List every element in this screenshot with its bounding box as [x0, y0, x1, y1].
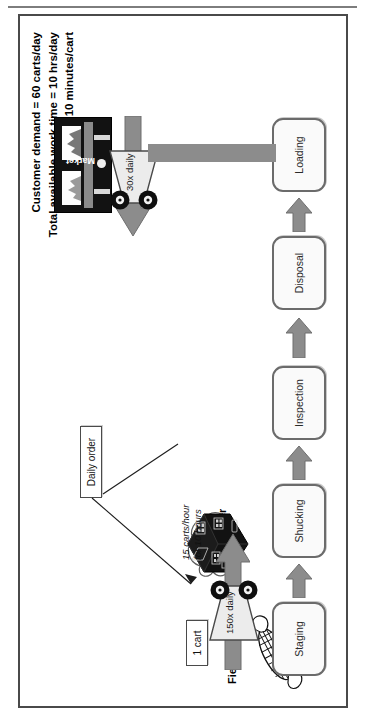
- shipment-label-30x-daily: 30x daily: [124, 154, 135, 192]
- process-label-staging: Staging: [293, 621, 305, 657]
- shipment-truck-150x: 150x daily: [208, 572, 264, 644]
- inventory-box-1-cart: 1 cart: [186, 620, 208, 666]
- process-box-shucking: Shucking: [272, 484, 326, 558]
- metric-customer-demand: Customer demand = 60 carts/day: [28, 32, 45, 237]
- push-arrow-disposal-to-loading: [286, 198, 312, 232]
- process-box-inspection: Inspection: [272, 366, 326, 440]
- rotated-figure-stage: Customer demand = 60 carts/day Total ava…: [18, 14, 348, 708]
- market-produce-right: [62, 126, 81, 160]
- process-label-shucking: Shucking: [293, 499, 305, 542]
- annotation-rate-line2: for 10 hours: [192, 505, 204, 560]
- process-box-loading: Loading: [272, 118, 326, 192]
- push-arrow-shucking-to-inspection: [286, 446, 312, 480]
- loading-to-shipment-connector: [148, 138, 276, 168]
- push-arrow-staging-to-shucking: [286, 564, 312, 598]
- market-building-icon: Market: [54, 117, 112, 213]
- market-sign-knob: [97, 159, 106, 168]
- push-arrow-inspection-to-disposal: [286, 324, 312, 358]
- figure-page: Customer demand = 60 carts/day Total ava…: [0, 0, 365, 720]
- process-label-disposal: Disposal: [293, 253, 305, 293]
- process-label-inspection: Inspection: [293, 379, 305, 427]
- process-box-staging: Staging: [272, 602, 326, 676]
- market-post-right: [94, 135, 110, 140]
- page-top-rule: [8, 6, 357, 8]
- inventory-label-1-cart: 1 cart: [192, 631, 203, 656]
- process-label-loading: Loading: [293, 136, 305, 173]
- process-box-disposal: Disposal: [272, 236, 326, 310]
- value-stream-map: Customer demand = 60 carts/day Total ava…: [18, 14, 348, 708]
- customer-label: Market: [66, 156, 95, 166]
- annotation-rate-line1: 15 carts/hour: [180, 505, 192, 560]
- market-produce-left: [62, 171, 81, 205]
- annotation-rate: 15 carts/hour for 10 hours: [180, 505, 204, 560]
- shipment-label-150x-daily: 150x daily: [224, 591, 235, 634]
